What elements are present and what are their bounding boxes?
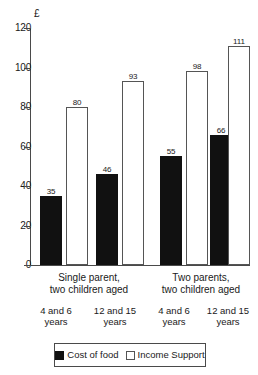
bar-income-support-two-4and6 [186,71,208,265]
bar-income-support-single-4and6 [66,107,88,265]
bars-layer: 35 80 46 93 55 98 66 111 [0,0,258,265]
bar-value-98: 98 [182,62,212,71]
bar-value-46: 46 [92,165,122,174]
bar-value-35: 35 [36,187,66,196]
legend-label-income-support: Income Support [138,350,205,360]
x-axis-line [30,265,250,266]
bar-income-support-single-12and15 [122,81,144,265]
subgroup-label-single-4and6-line1: 4 and 6 [28,305,84,316]
legend-label-cost-of-food: Cost of food [67,350,118,360]
group-label-single-parent-line1: Single parent, [30,272,148,284]
subgroup-label-two-4and6-line2: years [146,316,202,327]
bar-cost-of-food-single-4and6 [40,196,62,265]
bar-value-111: 111 [224,37,254,46]
bar-chart: £ 120 100 80 60 40 20 0 35 80 46 [0,0,258,270]
legend-item-cost-of-food: Cost of food [55,350,118,360]
y-tick-0: 0 [0,265,31,266]
bar-cost-of-food-two-4and6 [160,156,182,265]
bar-value-55: 55 [156,147,186,156]
subgroup-label-two-4and6-line1: 4 and 6 [146,305,202,316]
legend-item-income-support: Income Support [126,350,205,360]
legend-swatch-filled-icon [55,351,64,360]
group-label-single-parent-line2: two children aged [30,284,148,296]
bar-value-93: 93 [118,72,148,81]
bar-income-support-two-12and15 [228,46,250,265]
subgroup-label-two-12and15-line1: 12 and 15 [199,305,257,316]
subgroup-label-single-4and6-line2: years [28,316,84,327]
chart-legend: Cost of food Income Support [54,343,206,367]
group-label-two-parents-line2: two children aged [145,284,257,296]
subgroup-label-two-12and15-line2: years [199,316,257,327]
legend-swatch-outline-icon [126,351,135,360]
group-label-two-parents-line1: Two parents, [145,272,257,284]
bar-cost-of-food-single-12and15 [96,174,118,265]
subgroup-label-single-12and15-line1: 12 and 15 [84,305,146,316]
bar-value-80: 80 [62,98,92,107]
subgroup-label-single-12and15-line2: years [84,316,146,327]
